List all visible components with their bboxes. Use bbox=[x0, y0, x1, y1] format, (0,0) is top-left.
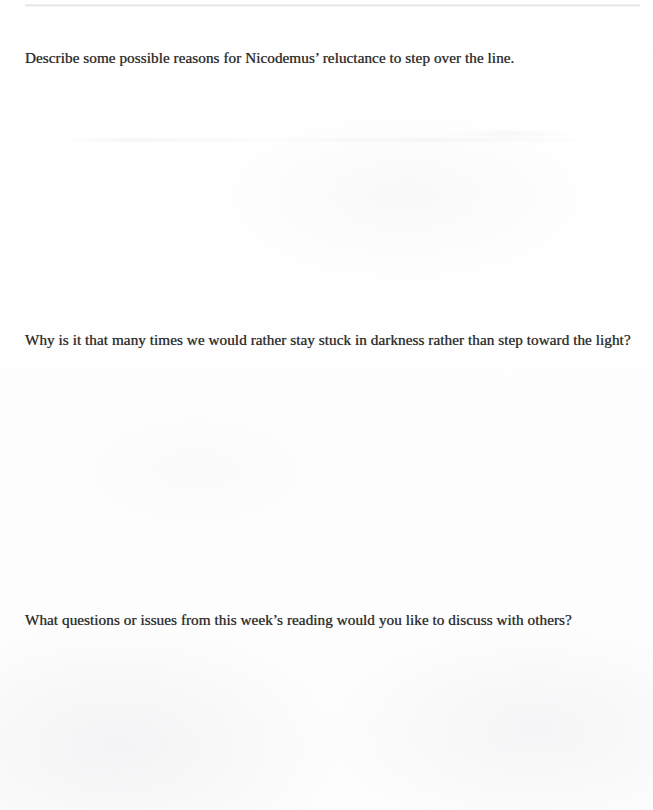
question-text-2: Why is it that many times we would rathe… bbox=[25, 330, 631, 349]
bleed-through-ghost-artifact bbox=[60, 138, 600, 142]
paper-grain-texture bbox=[0, 0, 653, 810]
answer-space-3[interactable] bbox=[25, 632, 628, 802]
answer-space-1[interactable] bbox=[25, 70, 628, 328]
scan-edge-line-artifact bbox=[25, 4, 640, 7]
question-text-3: What questions or issues from this week’… bbox=[25, 610, 572, 629]
answer-space-2[interactable] bbox=[25, 352, 628, 608]
question-text-1: Describe some possible reasons for Nicod… bbox=[25, 48, 514, 67]
scanned-page: Describe some possible reasons for Nicod… bbox=[0, 0, 653, 810]
bleed-through-ghost-artifact-secondary bbox=[420, 128, 600, 140]
